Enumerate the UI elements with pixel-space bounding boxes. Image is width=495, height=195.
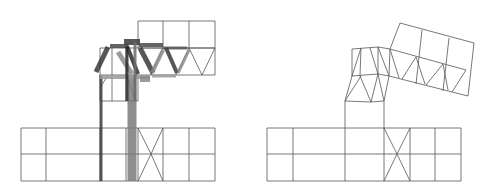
mesh-edge [384, 128, 397, 154]
mesh-edge [371, 101, 384, 102]
mesh-edge [352, 74, 378, 76]
mesh-edge [138, 128, 151, 154]
mesh-edge [452, 70, 466, 92]
mesh-edge [397, 154, 410, 181]
mesh-edge [360, 48, 361, 76]
force-member [152, 50, 163, 73]
mesh-edge [390, 49, 399, 78]
figure-canvas [0, 0, 495, 195]
truss-mesh-diagrams [0, 0, 495, 195]
left-undeformed-mesh-with-forces [21, 21, 215, 181]
mesh-edge [345, 76, 352, 101]
force-member [166, 48, 177, 73]
mesh-edge [384, 76, 389, 101]
mesh-edge [426, 64, 443, 85]
mesh-edge [384, 154, 397, 181]
mesh-edge [389, 49, 390, 76]
mesh-edge [360, 76, 371, 102]
mesh-edge [400, 23, 474, 43]
mesh-edge [390, 49, 466, 70]
mesh-edge [370, 48, 378, 74]
mesh-edge [151, 154, 163, 181]
force-member [140, 48, 153, 73]
mesh-edge [443, 38, 449, 91]
mesh-edge [468, 43, 474, 96]
mesh-edge [390, 23, 400, 49]
mesh-edge [371, 74, 378, 102]
mesh-edge [397, 128, 410, 154]
mesh-edge [416, 30, 422, 84]
mesh-edge [151, 128, 163, 154]
mesh-edge [202, 48, 215, 75]
mesh-edge [378, 47, 390, 49]
mesh-edge [345, 101, 371, 102]
mesh-edge [378, 74, 389, 76]
force-member [96, 47, 108, 72]
mesh-edge [189, 48, 202, 75]
right-deformed-mesh [267, 23, 474, 181]
mesh-edge [352, 48, 361, 76]
mesh-edge [378, 74, 384, 101]
mesh-edge [352, 47, 378, 49]
mesh-edge [402, 57, 416, 79]
mesh-edge [138, 154, 151, 181]
force-member [178, 50, 189, 73]
mesh-edge [345, 76, 361, 101]
mesh-edge [378, 47, 389, 76]
